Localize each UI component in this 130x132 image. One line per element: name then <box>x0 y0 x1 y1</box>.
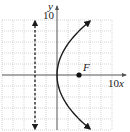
x-tick-label: 10 <box>108 77 120 89</box>
focus-point <box>76 72 81 77</box>
x-axis-label: x <box>118 77 124 89</box>
y-axis-label: y <box>47 0 53 12</box>
focus-label: F <box>82 61 90 73</box>
parabola-chart: F 10 10 x y <box>0 0 130 132</box>
